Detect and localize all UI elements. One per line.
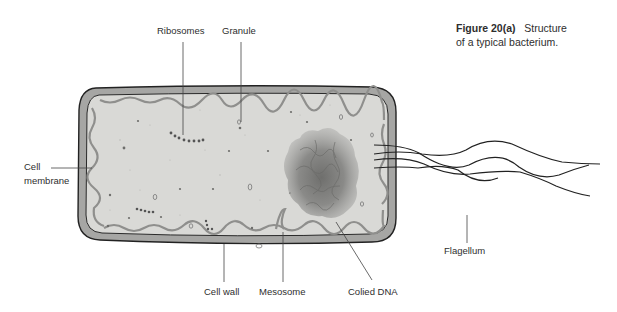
figure-caption-line2: of a typical bacterium.	[456, 36, 558, 48]
label-flagellum: Flagellum	[444, 245, 485, 257]
figure-caption: Figure 20(a) Structure of a typical bact…	[456, 21, 567, 49]
figure-caption-label: Figure 20(a)	[456, 22, 516, 34]
flagella	[374, 141, 600, 196]
label-cell-wall: Cell wall	[204, 286, 239, 298]
figure-caption-text: Structure	[524, 22, 567, 34]
label-coiled-dna: Colied DNA	[348, 286, 398, 298]
label-mesosome: Mesosome	[259, 286, 305, 298]
label-granule: Granule	[222, 25, 256, 37]
label-cell-membrane-line1: Cell	[24, 161, 40, 173]
label-cell-membrane-line2: membrane	[24, 175, 69, 187]
label-ribosomes: Ribosomes	[157, 25, 205, 37]
